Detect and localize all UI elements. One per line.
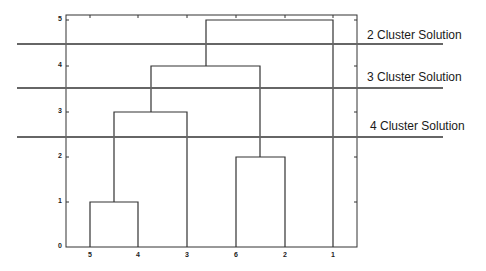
y-tick-1: 1 [58,197,62,204]
label-4-cluster-solution: 4 Cluster Solution [370,119,465,133]
leaf-label-5: 5 [88,251,92,258]
leaf-label-6: 6 [234,251,238,258]
leaf-label-1: 1 [331,251,335,258]
leaf-label-4: 4 [136,251,140,258]
label-2-cluster-solution: 2 Cluster Solution [367,28,462,42]
dendrogram-links [90,20,333,247]
y-tick-4: 4 [58,61,62,68]
leaf-label-3: 3 [185,251,189,258]
plot-frame [66,15,357,247]
y-tick-0: 0 [58,242,62,249]
y-tick-2: 2 [58,152,62,159]
y-tick-3: 3 [58,107,62,114]
leaf-label-2: 2 [283,251,287,258]
label-3-cluster-solution: 3 Cluster Solution [367,70,462,84]
y-tick-5: 5 [58,15,62,22]
